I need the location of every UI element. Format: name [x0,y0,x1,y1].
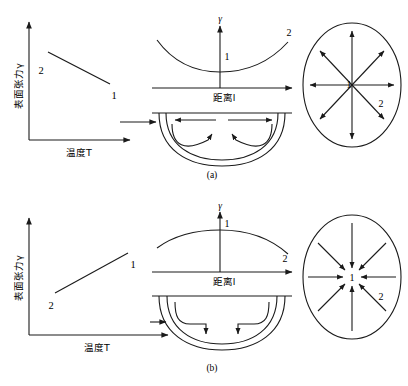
figure-background [0,0,408,386]
ellipse-center-label: 1 [347,79,352,90]
y-axis-label: 表面张力γ [13,63,24,109]
gamma-axis-label: γ [218,14,222,24]
x-axis-label: 温度T [84,342,110,353]
curve-label-1: 1 [225,51,230,62]
figure-svg: 表面张力γ 温度T 2 1 γ 距离l 1 2 [0,0,408,386]
x-axis-label: 温度T [66,147,92,158]
y-axis-label: 表面张力γ [13,255,24,301]
curve-label-1: 1 [225,218,230,229]
panel-b-caption: (b) [206,363,217,374]
ellipse-edge-label: 2 [379,291,384,302]
panel-a-ellipse-diagram: 1 2 [303,23,401,147]
distance-axis-label: 距离l [213,92,236,103]
panel-a-caption: (a) [207,170,218,181]
curve-label-2: 2 [287,27,292,38]
point-label-1: 1 [111,90,116,101]
point-label-2: 2 [48,300,53,311]
curve-label-2: 2 [283,253,288,264]
panel-b-ellipse-diagram: 1 2 [303,215,401,339]
ellipse-center-label: 1 [350,272,355,283]
surface-tension-figure: 表面张力γ 温度T 2 1 γ 距离l 1 2 [0,0,408,386]
point-label-1: 1 [130,259,135,270]
gamma-axis-label: γ [218,201,222,211]
ellipse-edge-label: 2 [379,98,384,109]
distance-axis-label: 距离l [213,276,236,287]
point-label-2: 2 [38,65,43,76]
